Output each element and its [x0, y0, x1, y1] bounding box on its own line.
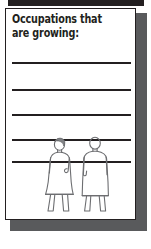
answer-line-2[interactable]: [12, 89, 131, 91]
top-bleed-bar: [8, 0, 144, 6]
page-title: Occupations that are growing:: [12, 13, 122, 40]
two-standing-people-illustration: [38, 137, 120, 220]
figure-right-person: [82, 137, 108, 211]
hair-shape: [55, 138, 65, 146]
figure-left-person-with-hair: [46, 138, 74, 211]
worksheet-card: Occupations that are growing:: [5, 8, 136, 220]
answer-line-1[interactable]: [12, 62, 131, 64]
answer-line-3[interactable]: [12, 114, 131, 116]
